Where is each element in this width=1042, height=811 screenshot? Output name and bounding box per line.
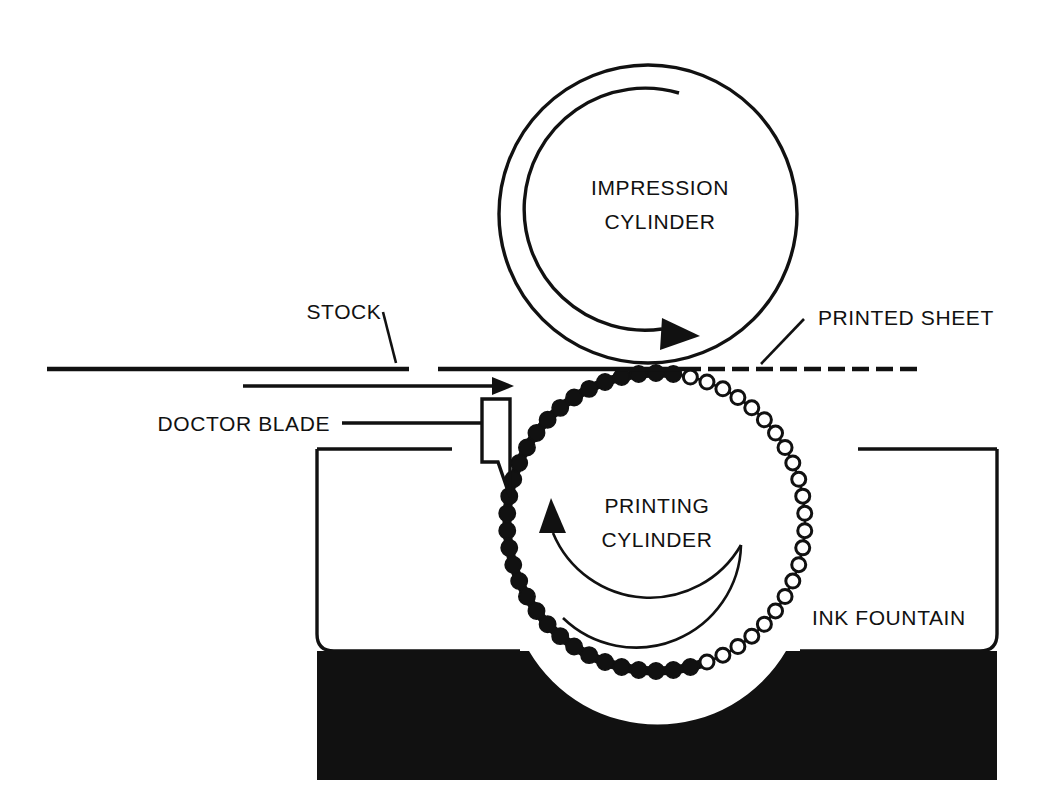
- impression-cylinder-label-line1: IMPRESSION: [591, 176, 729, 199]
- engraved-cell: [745, 401, 759, 415]
- engraved-cell: [631, 662, 647, 678]
- printing-cylinder-label-line2: CYLINDER: [602, 528, 713, 551]
- engraved-cell: [528, 425, 544, 441]
- engraved-cell: [613, 659, 629, 675]
- stock-leader-line: [383, 312, 396, 363]
- engraved-cell: [665, 662, 681, 678]
- engraved-cell: [499, 505, 515, 521]
- engraved-cell: [682, 659, 698, 675]
- engraved-cell: [792, 472, 806, 486]
- engraved-cell: [786, 456, 800, 470]
- engraved-cell: [796, 489, 810, 503]
- engraved-cell: [581, 381, 597, 397]
- printed-sheet-leader-line: [761, 319, 804, 364]
- engraved-cell: [505, 557, 521, 573]
- engraved-inked-band: [507, 373, 707, 671]
- engraved-cell: [731, 391, 745, 405]
- printing-press-diagram: IMPRESSION CYLINDER PRINTING CYLINDER ST…: [0, 0, 1042, 811]
- printing-cylinder-rotation-arrowhead: [539, 498, 566, 533]
- printing-cylinder-rotation-arc: [563, 545, 741, 648]
- engraved-cell: [539, 616, 555, 632]
- engraved-cell: [581, 647, 597, 663]
- engraved-cell: [769, 604, 783, 618]
- engraved-cell: [566, 389, 582, 405]
- engraved-cell: [566, 638, 582, 654]
- doctor-blade-shape: [482, 399, 510, 497]
- engraved-cell: [716, 382, 730, 396]
- feed-arrow-head: [492, 377, 514, 395]
- engraved-cell: [796, 541, 810, 555]
- engraved-cell: [511, 455, 527, 471]
- ink-fountain-label: INK FOUNTAIN: [812, 606, 966, 629]
- engraved-cell: [519, 588, 535, 604]
- engraved-cell: [778, 441, 792, 455]
- engraved-cell: [597, 374, 613, 390]
- engraved-cell: [786, 574, 800, 588]
- engraved-cell: [792, 558, 806, 572]
- engraved-cell: [499, 522, 515, 538]
- engraved-cell: [552, 400, 568, 416]
- printed-sheet-label: PRINTED SHEET: [818, 306, 994, 329]
- feed-direction-arrow: [243, 377, 514, 395]
- engraved-cell: [757, 413, 771, 427]
- engraved-cell: [552, 628, 568, 644]
- engraved-cell: [700, 655, 714, 669]
- engraved-cell: [648, 663, 664, 679]
- engraved-cell: [519, 439, 535, 455]
- printing-cylinder-group: [499, 365, 812, 679]
- engraved-cell: [798, 506, 812, 520]
- engraved-cell: [501, 540, 517, 556]
- impression-cylinder-rotation-arrowhead: [660, 318, 700, 350]
- ink-fountain-left-wall: [317, 449, 520, 651]
- stock-label: STOCK: [307, 300, 382, 323]
- diagram-canvas: IMPRESSION CYLINDER PRINTING CYLINDER ST…: [0, 0, 1042, 811]
- engraved-cell: [731, 639, 745, 653]
- engraved-cell: [511, 573, 527, 589]
- printing-cylinder-label-line1: PRINTING: [604, 494, 709, 517]
- impression-cylinder-label-line2: CYLINDER: [605, 210, 716, 233]
- engraved-cell: [778, 590, 792, 604]
- engraved-cell: [716, 648, 730, 662]
- engraved-cell: [745, 629, 759, 643]
- engraved-cell: [539, 412, 555, 428]
- engraved-cell: [597, 654, 613, 670]
- engraved-cell: [769, 426, 783, 440]
- engraved-cell: [528, 603, 544, 619]
- engraved-cell: [757, 617, 771, 631]
- engraved-cell: [700, 375, 714, 389]
- engraved-cell: [683, 370, 697, 384]
- engraved-cell: [798, 524, 812, 538]
- doctor-blade-label: DOCTOR BLADE: [157, 412, 330, 435]
